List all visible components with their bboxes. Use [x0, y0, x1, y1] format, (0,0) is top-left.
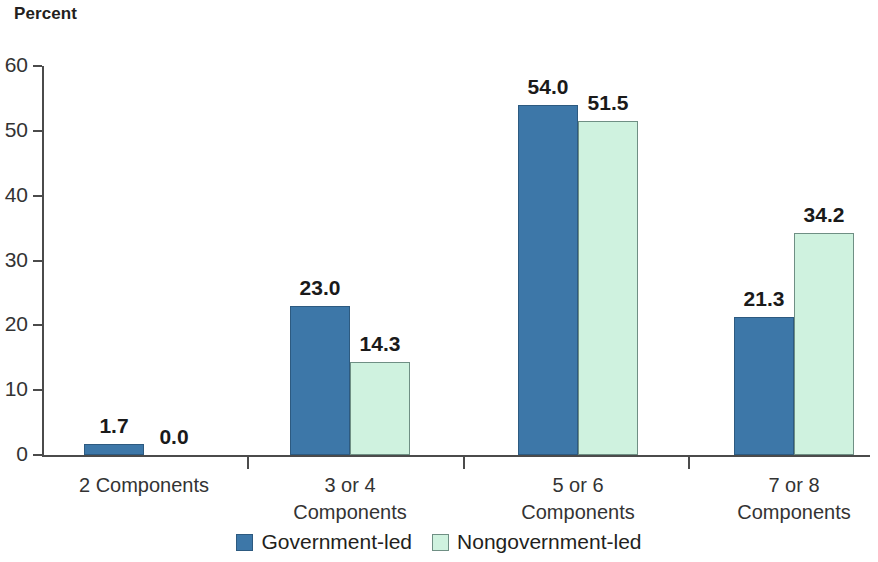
x-axis-category-label-line: 3 or 4 — [293, 472, 406, 499]
legend-swatch — [432, 534, 449, 551]
y-axis-tick-mark — [33, 65, 42, 67]
bar-value-label: 14.3 — [360, 332, 401, 356]
x-axis-tick-mark — [688, 457, 690, 469]
bar-value-label: 23.0 — [300, 276, 341, 300]
x-axis-tick-mark — [247, 457, 249, 469]
y-axis-tick-mark — [33, 130, 42, 132]
y-axis-tick-label: 40 — [5, 183, 28, 207]
x-axis-category-label-line: Components — [521, 499, 634, 526]
x-axis-category-label: 3 or 4Components — [293, 472, 406, 526]
y-axis-tick-mark — [33, 195, 42, 197]
y-axis-tick-mark — [33, 324, 42, 326]
x-axis-category-label: 7 or 8Components — [737, 472, 850, 526]
bar — [578, 121, 638, 455]
bar — [84, 444, 144, 455]
y-axis-tick-label: 60 — [5, 53, 28, 77]
bar — [350, 362, 410, 455]
x-axis-category-label: 5 or 6Components — [521, 472, 634, 526]
y-axis-tick-label: 30 — [5, 248, 28, 272]
legend-item: Nongovernment-led — [432, 530, 641, 554]
x-axis-category-label-line: 2 Components — [79, 472, 209, 499]
y-axis-title: Percent — [14, 4, 77, 24]
bar-chart: Percent 6050403020100 1.70.023.014.354.0… — [0, 0, 878, 562]
chart-legend: Government-ledNongovernment-led — [0, 530, 878, 554]
x-axis-category-label: 2 Components — [79, 472, 209, 499]
y-axis-tick-label: 0 — [16, 442, 28, 466]
bar — [290, 306, 350, 455]
x-axis-category-label-line: Components — [737, 499, 850, 526]
y-axis-tick-mark — [33, 389, 42, 391]
legend-label: Nongovernment-led — [457, 530, 641, 554]
bar-value-label: 1.7 — [99, 414, 128, 438]
legend-item: Government-led — [236, 530, 412, 554]
y-axis-line — [42, 66, 44, 456]
bar-value-label: 0.0 — [159, 425, 188, 449]
bar-value-label: 51.5 — [588, 91, 629, 115]
bar — [734, 317, 794, 455]
y-axis-tick-label: 20 — [5, 312, 28, 336]
bar-value-label: 54.0 — [528, 75, 569, 99]
x-axis-category-label-line: 5 or 6 — [521, 472, 634, 499]
bar-value-label: 21.3 — [744, 287, 785, 311]
legend-swatch — [236, 534, 253, 551]
legend-label: Government-led — [261, 530, 412, 554]
bar-value-label: 34.2 — [804, 203, 845, 227]
x-axis-category-label-line: 7 or 8 — [737, 472, 850, 499]
y-axis-tick-mark — [33, 454, 42, 456]
x-axis-category-label-line: Components — [293, 499, 406, 526]
x-axis-tick-mark — [463, 457, 465, 469]
y-axis-tick-mark — [33, 260, 42, 262]
y-axis-tick-label: 10 — [5, 377, 28, 401]
x-axis-line — [42, 455, 870, 457]
bar — [518, 105, 578, 455]
bar — [794, 233, 854, 455]
y-axis-tick-label: 50 — [5, 118, 28, 142]
